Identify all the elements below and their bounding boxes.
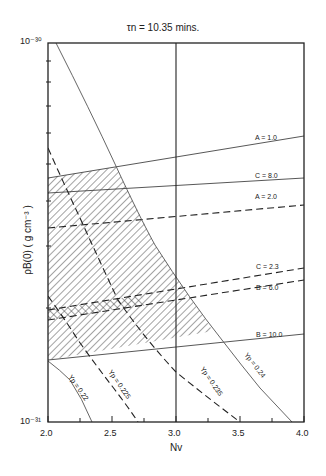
y-tick-bottom: 10⁻³¹ — [20, 416, 41, 426]
x-tick-2.5: 2.5 — [104, 428, 117, 438]
label-c-2.3: C = 2.3 — [256, 263, 279, 270]
x-tick-2.0: 2.0 — [40, 428, 53, 438]
x-tick-3.5: 3.5 — [232, 428, 245, 438]
plot-area: A = 1.0 C = 8.0 A = 2.0 C = 2.3 B = 6.0 … — [0, 0, 326, 476]
label-a-2.0: A = 2.0 — [255, 193, 277, 200]
x-tick-4.0: 4.0 — [296, 428, 309, 438]
x-tick-3.0: 3.0 — [168, 428, 181, 438]
label-c-8.0: C = 8.0 — [255, 172, 278, 179]
label-b-10.0: B = 10.0 — [256, 331, 282, 338]
label-a-1.0: A = 1.0 — [255, 134, 277, 141]
label-yp-0.24: Yp = 0.24 — [242, 351, 267, 379]
label-b-6.0: B = 6.0 — [256, 284, 278, 291]
y-tick-top: 10⁻³⁰ — [20, 36, 42, 46]
y-axis-label: ρB(0) ( g cm⁻³ ) — [22, 205, 33, 275]
x-axis-label: Nv — [170, 442, 182, 453]
label-yp-0.22: Yp = 0.22 — [66, 374, 90, 403]
label-yp-0.235: Yp = 0.235 — [198, 366, 224, 398]
x-axis-ticks — [48, 416, 304, 422]
